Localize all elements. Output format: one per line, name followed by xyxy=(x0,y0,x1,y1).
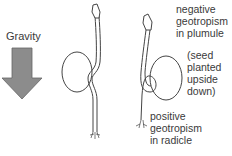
plumule-tip xyxy=(143,14,152,30)
seed-note-line2: planted xyxy=(187,61,221,74)
gravity-arrow-icon xyxy=(2,48,42,99)
seed-note-line4: down) xyxy=(187,85,216,98)
seed-cotyledon xyxy=(150,56,182,100)
radicle-label-line3: in radicle xyxy=(150,134,192,147)
seed-note-line3: upside xyxy=(187,73,218,86)
plumule-label-line2: geotropism xyxy=(176,15,228,28)
plumule-label-line3: in plumule xyxy=(176,27,224,40)
seedling-normal xyxy=(62,4,100,139)
seed-note-line1: (seed xyxy=(187,49,213,62)
radicle-label-line2: geotropism xyxy=(150,122,202,135)
geotropism-diagram: Gravity negative geotropism in plumule (… xyxy=(0,0,232,156)
radicle-label-line1: positive xyxy=(150,110,186,123)
plumule-tip xyxy=(92,4,100,18)
seed-cotyledon xyxy=(62,52,92,92)
plumule-label-line1: negative xyxy=(176,3,216,16)
gravity-label: Gravity xyxy=(6,30,41,43)
